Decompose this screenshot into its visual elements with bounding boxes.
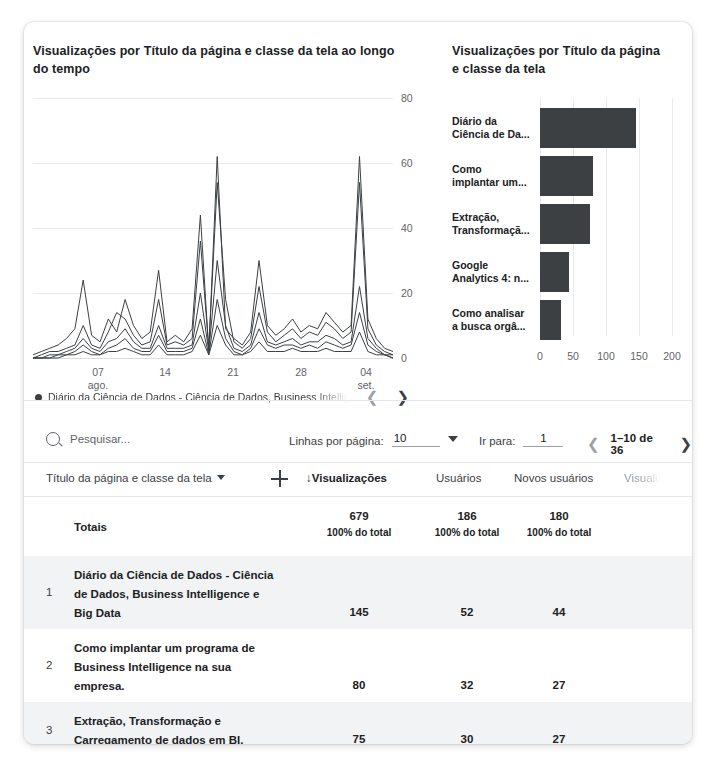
line-chart-title: Visualizações por Título da página e cla… xyxy=(33,42,413,78)
report-card: Visualizações por Título da página e cla… xyxy=(24,22,692,744)
table-toolbar: Pesquisar... Linhas por página: 10 Ir pa… xyxy=(24,424,692,462)
search-input[interactable]: Pesquisar... xyxy=(46,432,130,446)
totals-views-value: 679 xyxy=(349,510,368,522)
bar-x-tick: 200 xyxy=(657,350,687,362)
table-body: Totais 679 100% do total 186 100% do tot… xyxy=(24,496,692,744)
bar-gridline xyxy=(639,98,640,336)
bar[interactable] xyxy=(540,204,590,244)
totals-new-users-value: 180 xyxy=(549,510,568,522)
bar-category-line: Google xyxy=(452,259,534,272)
line-chart-plot: 80 60 40 20 0 07 ago. 14 21 28 xyxy=(33,98,393,361)
row-users: 32 xyxy=(432,679,502,691)
bar-x-tick: 0 xyxy=(525,350,555,362)
goto-input[interactable]: 1 xyxy=(523,432,563,447)
x-axis-tick: 21 xyxy=(213,366,253,379)
rows-per-page-value[interactable]: 10 xyxy=(392,432,440,447)
rows-per-page-control[interactable]: Linhas por página: 10 xyxy=(289,432,458,447)
column-header-partial-label: Visualiz xyxy=(624,472,663,484)
row-name[interactable]: Extração, Transformação e Carregamento d… xyxy=(74,712,274,744)
row-name[interactable]: Como implantar um programa de Business I… xyxy=(74,639,274,696)
bar-category-line: Extração, xyxy=(452,211,534,224)
y-axis-tick: 40 xyxy=(401,222,441,234)
column-header-dimension-label: Título da página e classe da tela xyxy=(46,472,212,484)
row-users: 30 xyxy=(432,733,502,744)
y-axis-tick: 60 xyxy=(401,157,441,169)
totals-users-value: 186 xyxy=(457,510,476,522)
row-new-users: 27 xyxy=(524,733,594,744)
x-axis-tick: 14 xyxy=(145,366,185,379)
x-axis-tick-label: 21 xyxy=(227,366,239,378)
bar[interactable] xyxy=(540,108,636,148)
bar-category-line: Ciência de Da... xyxy=(452,128,534,141)
bar-category-line: Como xyxy=(452,163,534,176)
x-axis-tick-label: 28 xyxy=(295,366,307,378)
row-views: 75 xyxy=(324,733,394,744)
bar-x-tick: 50 xyxy=(558,350,588,362)
row-users: 52 xyxy=(432,606,502,618)
pagination-range: 1–10 de 36 xyxy=(611,432,669,456)
bar[interactable] xyxy=(540,156,593,196)
table-row-totals: Totais 679 100% do total 186 100% do tot… xyxy=(24,496,692,556)
bar-chart-bars-area: 0 50 100 150 200 xyxy=(540,98,676,360)
totals-new-users: 180 100% do total xyxy=(524,510,594,538)
search-icon xyxy=(46,432,60,446)
bar-category-line: Analytics 4: n... xyxy=(452,272,534,285)
column-header-dimension[interactable]: Título da página e classe da tela xyxy=(46,472,225,484)
search-placeholder: Pesquisar... xyxy=(70,433,130,445)
totals-label: Totais xyxy=(74,518,274,537)
column-header-partial[interactable]: Visualiz xyxy=(624,472,663,484)
row-new-users: 27 xyxy=(524,679,594,691)
row-views: 145 xyxy=(324,606,394,618)
bar-category-line: Diário da xyxy=(452,115,534,128)
row-new-users: 44 xyxy=(524,606,594,618)
chevron-right-icon[interactable]: ❯ xyxy=(679,437,692,452)
row-index: 3 xyxy=(46,724,52,736)
bar-category-label: Google Analytics 4: n... xyxy=(452,259,534,285)
y-axis-tick: 80 xyxy=(401,92,441,104)
bar-category-line: Transformaçã... xyxy=(452,224,534,237)
goto-page-control[interactable]: Ir para: 1 xyxy=(479,432,563,447)
column-header-new-users[interactable]: Novos usuários xyxy=(514,472,593,484)
bar-category-line: a busca orgâ... xyxy=(452,320,534,333)
y-axis-tick: 0 xyxy=(401,352,441,364)
bar-chart-panel: Visualizações por Título da página e cla… xyxy=(452,42,692,392)
x-axis-tick-label: 07 xyxy=(92,366,104,378)
totals-views: 679 100% do total xyxy=(324,510,394,538)
bar-category-label: Extração, Transformaçã... xyxy=(452,211,534,237)
chevron-down-icon[interactable] xyxy=(217,475,225,480)
row-name[interactable]: Diário da Ciência de Dados - Ciência de … xyxy=(74,566,274,623)
bar-x-tick: 150 xyxy=(624,350,654,362)
bar-category-label: Como analisar a busca orgâ... xyxy=(452,307,534,333)
chevron-down-icon[interactable] xyxy=(448,436,458,442)
line-series xyxy=(33,183,393,359)
bar-x-tick: 100 xyxy=(591,350,621,362)
bar[interactable] xyxy=(540,252,569,292)
rows-per-page-label: Linhas por página: xyxy=(289,435,384,447)
x-axis-tick-label: 14 xyxy=(159,366,171,378)
line-chart-panel: Visualizações por Título da página e cla… xyxy=(33,42,445,392)
bar[interactable] xyxy=(540,300,561,340)
divider xyxy=(24,400,692,401)
totals-new-users-pct: 100% do total xyxy=(524,527,594,538)
chevron-left-icon[interactable]: ❮ xyxy=(587,437,600,452)
charts-region: Visualizações por Título da página e cla… xyxy=(24,22,692,392)
bar-category-label: Diário da Ciência de Da... xyxy=(452,115,534,141)
totals-views-pct: 100% do total xyxy=(324,527,394,538)
x-axis-tick-label: 04 xyxy=(360,366,372,378)
table-region: Pesquisar... Linhas por página: 10 Ir pa… xyxy=(24,400,692,744)
row-views: 80 xyxy=(324,679,394,691)
goto-label: Ir para: xyxy=(479,435,515,447)
totals-users: 186 100% do total xyxy=(432,510,502,538)
column-header-views[interactable]: ↓Visualizações xyxy=(306,472,387,484)
add-dimension-icon[interactable] xyxy=(271,470,288,487)
table-row[interactable]: 1 Diário da Ciência de Dados - Ciência d… xyxy=(24,556,692,629)
bar-category-label: Como implantar um... xyxy=(452,163,534,189)
column-header-users[interactable]: Usuários xyxy=(436,472,481,484)
totals-users-pct: 100% do total xyxy=(432,527,502,538)
bar-category-line: implantar um... xyxy=(452,176,534,189)
table-row[interactable]: 2 Como implantar um programa de Business… xyxy=(24,629,692,702)
bar-chart-plot: Diário da Ciência de Da... Como implanta… xyxy=(452,98,684,360)
table-row[interactable]: 3 Extração, Transformação e Carregamento… xyxy=(24,702,692,744)
x-axis-tick: 28 xyxy=(281,366,321,379)
pagination: ❮ 1–10 de 36 ❯ xyxy=(587,432,692,456)
